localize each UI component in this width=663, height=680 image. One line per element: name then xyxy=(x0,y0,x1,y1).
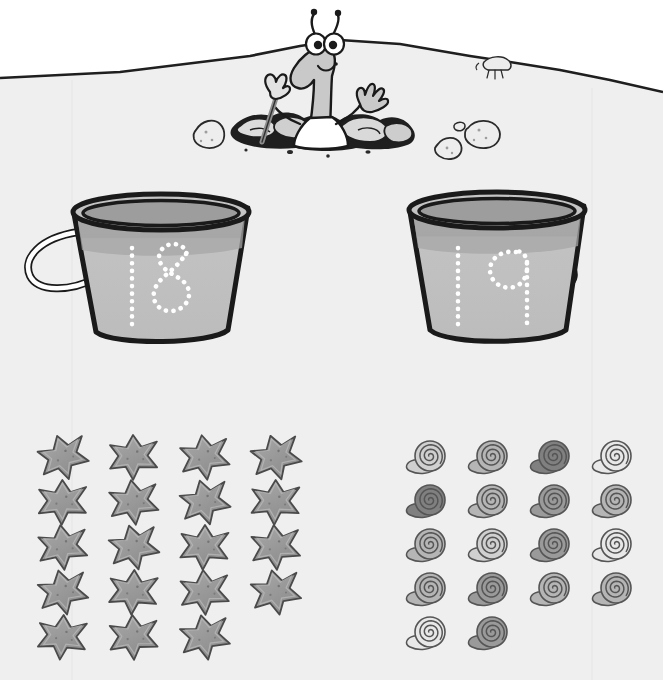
worksheet-canvas xyxy=(0,0,663,680)
worksheet-page: Trace the number 18 Trace the number 19 … xyxy=(0,0,663,680)
bucket-right[interactable] xyxy=(409,192,585,341)
